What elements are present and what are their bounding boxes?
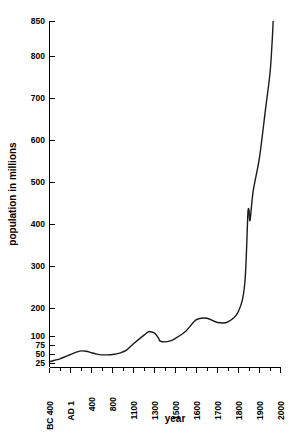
x-tick-label: 1100: [129, 401, 139, 420]
y-tick-label: 400: [31, 219, 45, 229]
x-axis-title: year: [165, 413, 186, 424]
y-tick-label: 800: [31, 51, 45, 61]
x-tick-label: BC 400: [45, 401, 55, 430]
x-tick-label: 1800: [234, 401, 244, 420]
y-tick-label: 500: [31, 177, 45, 187]
x-tick-label: 2000: [276, 401, 286, 420]
x-tick-label: 1300: [150, 401, 160, 420]
x-tick-label: 1600: [192, 401, 202, 420]
y-tick-label: 600: [31, 135, 45, 145]
y-tick-label: 25: [36, 358, 46, 368]
chart-svg: 850 800 700 600 500 400 300 200 100 75 5…: [0, 0, 293, 437]
population-chart: 850 800 700 600 500 400 300 200 100 75 5…: [0, 0, 293, 437]
y-tick-label: 300: [31, 261, 45, 271]
y-tick-labels: 850 800 700 600 500 400 300 200 100 75 5…: [31, 16, 45, 368]
x-tick-label: 400: [87, 397, 97, 411]
y-tick-label: 200: [31, 303, 45, 313]
x-tick-label: 800: [108, 397, 118, 411]
y-tick-marks: [50, 22, 56, 364]
x-tick-label: 1900: [255, 401, 265, 420]
y-tick-label: 850: [31, 16, 45, 26]
y-tick-label: 700: [31, 93, 45, 103]
x-tick-label: 1700: [213, 401, 223, 420]
population-line: [50, 22, 274, 362]
x-tick-label: AD 1: [66, 401, 76, 421]
y-axis-title: population in millions: [7, 142, 18, 246]
